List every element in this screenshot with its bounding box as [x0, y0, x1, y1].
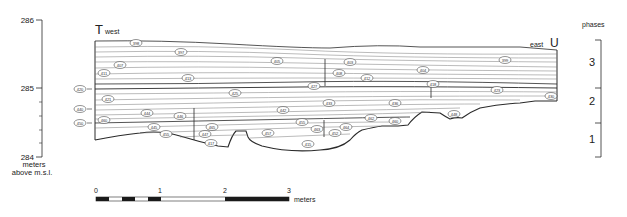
layer-label: 460 — [98, 117, 110, 124]
svg-text:450: 450 — [77, 121, 84, 126]
layer-label: 446 — [174, 113, 186, 120]
side-markers: 420440450 — [74, 86, 92, 127]
layer-label: 397 — [175, 49, 187, 56]
svg-text:452: 452 — [332, 131, 339, 136]
svg-text:412: 412 — [364, 76, 371, 81]
layer-label: 445 — [148, 124, 160, 131]
side-marker-label: 440 — [74, 106, 86, 113]
svg-text:404: 404 — [420, 68, 427, 73]
layer-label: 433 — [323, 100, 335, 107]
svg-text:455: 455 — [163, 132, 170, 137]
svg-text:399: 399 — [502, 58, 509, 63]
svg-text:436: 436 — [392, 101, 399, 106]
scale-tick-3: 3 — [287, 187, 291, 194]
phases-legend: phases 3 2 1 — [582, 21, 605, 157]
phase-1-label: 1 — [589, 133, 595, 145]
svg-text:407: 407 — [117, 63, 124, 68]
svg-text:433: 433 — [326, 101, 333, 106]
svg-text:415: 415 — [305, 142, 312, 147]
side-marker-label: 450 — [74, 120, 86, 127]
section-east-letter: U — [550, 36, 559, 50]
layer-label: 399 — [499, 57, 511, 64]
svg-text:430: 430 — [548, 94, 555, 99]
svg-text:405: 405 — [274, 59, 281, 64]
layer-label: 423 — [491, 87, 503, 94]
layer-label: 460 — [389, 118, 401, 125]
svg-text:463: 463 — [314, 127, 321, 132]
layer-label: 421 — [102, 96, 114, 103]
svg-text:457: 457 — [265, 131, 272, 136]
scale-tick-2: 2 — [223, 187, 227, 194]
layer-label: 413 — [182, 75, 194, 82]
layer-label: 455 — [160, 131, 172, 138]
svg-text:440: 440 — [77, 107, 84, 112]
layer-label: 442 — [277, 107, 289, 114]
layer-label: 447 — [199, 131, 211, 138]
svg-text:445: 445 — [151, 125, 158, 130]
layer-label: 452 — [329, 130, 341, 137]
svg-text:460: 460 — [101, 118, 108, 123]
scale-unit: meters — [294, 196, 316, 203]
layer-label: 448 — [448, 111, 460, 118]
svg-text:413: 413 — [185, 76, 192, 81]
layer-label: 411 — [98, 70, 110, 77]
svg-text:462: 462 — [368, 116, 375, 121]
axis-unit-line2: above m.s.l. — [12, 168, 52, 177]
strata-lines — [95, 46, 557, 138]
layer-label: 417 — [205, 140, 217, 147]
layer-label: 403 — [344, 59, 356, 66]
scale-bar: 0 1 2 3 meters — [94, 187, 316, 203]
layer-label: 415 — [302, 141, 314, 148]
svg-text:464: 464 — [343, 125, 350, 130]
svg-text:444: 444 — [144, 111, 151, 116]
layer-label: 463 — [311, 126, 323, 133]
layer-label: 462 — [365, 115, 377, 122]
scale-tick-0: 0 — [94, 187, 98, 194]
svg-text:442: 442 — [280, 108, 287, 113]
svg-text:447: 447 — [202, 132, 209, 137]
layer-label: 404 — [417, 67, 429, 74]
layer-label: 425 — [229, 90, 241, 97]
phases-title: phases — [582, 21, 605, 29]
elevation-axis: 286 285 284 meters above m.s.l. — [12, 16, 52, 177]
section-east-label: east — [530, 41, 543, 48]
svg-text:427: 427 — [311, 84, 318, 89]
layer-label: 407 — [114, 62, 126, 69]
layer-label: 418 — [427, 81, 439, 88]
layer-label: 398 — [130, 40, 142, 47]
layer-label: 427 — [308, 83, 320, 90]
svg-text:423: 423 — [494, 88, 501, 93]
layer-label: 464 — [340, 124, 352, 131]
axis-tick-286: 286 — [21, 16, 35, 25]
layer-label: 455 — [296, 119, 308, 126]
svg-text:418: 418 — [430, 82, 437, 87]
svg-text:417: 417 — [208, 141, 215, 146]
svg-text:446: 446 — [177, 114, 184, 119]
svg-text:411: 411 — [101, 71, 108, 76]
layer-label: 405 — [271, 58, 283, 65]
stratigraphic-section-drawing: 286 285 284 meters above m.s.l. T west e… — [0, 0, 627, 217]
section-west-letter: T — [95, 22, 103, 37]
svg-text:465: 465 — [209, 125, 216, 130]
layer-label: 465 — [206, 124, 218, 131]
svg-text:425: 425 — [232, 91, 239, 96]
scale-tick-1: 1 — [158, 187, 162, 194]
side-marker-label: 420 — [74, 86, 86, 93]
svg-text:408: 408 — [336, 71, 343, 76]
phase-3-label: 3 — [589, 56, 595, 68]
phase-2-label: 2 — [589, 95, 595, 107]
layer-label: 436 — [389, 100, 401, 107]
axis-tick-285: 285 — [21, 84, 35, 93]
svg-text:455: 455 — [299, 120, 306, 125]
layer-label: 457 — [262, 130, 274, 137]
layer-label: 444 — [141, 110, 153, 117]
svg-text:460: 460 — [392, 119, 399, 124]
svg-text:398: 398 — [133, 41, 140, 46]
svg-text:421: 421 — [105, 97, 112, 102]
layer-label: 408 — [333, 70, 345, 77]
layer-label: 430 — [545, 93, 557, 100]
svg-text:420: 420 — [77, 87, 84, 92]
svg-text:448: 448 — [451, 112, 458, 117]
section-west-label: west — [104, 28, 119, 35]
svg-text:403: 403 — [347, 60, 354, 65]
